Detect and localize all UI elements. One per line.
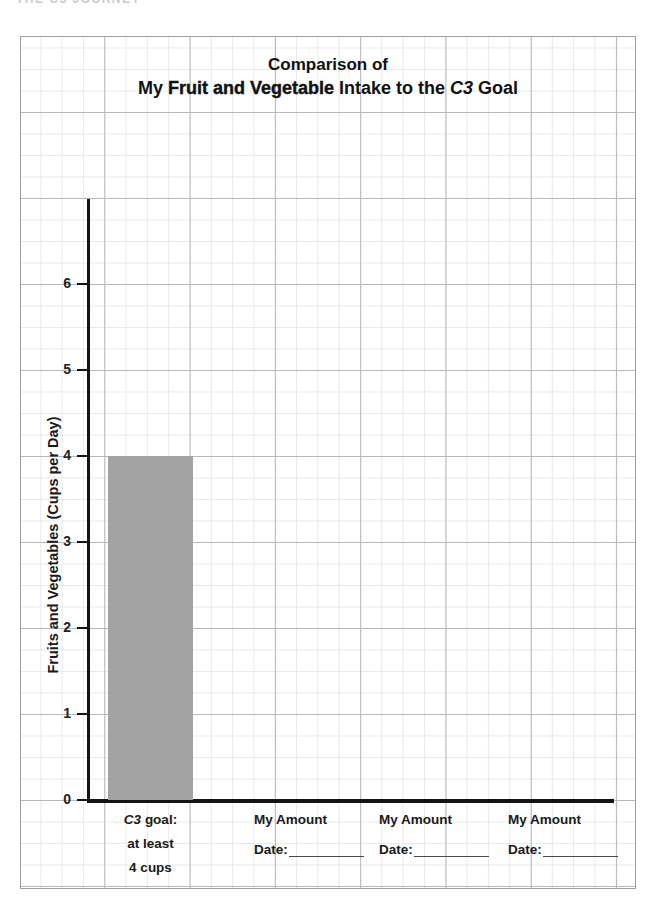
y-tick-0: [77, 799, 89, 802]
goal-label-line3: 4 cups: [100, 856, 201, 880]
y-tick-label-4: 4: [41, 447, 71, 463]
chart-title-line2: My Fruit and Vegetable Intake to the C3 …: [21, 77, 635, 100]
goal-bar: [108, 456, 193, 800]
date-label: Date:: [508, 842, 542, 857]
title-prefix: My: [138, 78, 168, 98]
y-tick-6: [77, 283, 89, 286]
date-label: Date:: [254, 842, 288, 857]
title-middle: Intake to the: [334, 78, 450, 98]
my-amount-label: My Amount: [379, 812, 529, 827]
y-tick-5: [77, 369, 89, 372]
goal-bar-label: C3 goal: at least 4 cups: [100, 808, 201, 880]
y-tick-4: [77, 455, 89, 458]
y-tick-label-5: 5: [41, 361, 71, 377]
title-suffix: Goal: [473, 78, 518, 98]
my-amount-block-3: My Amount Date:: [508, 812, 656, 857]
date-label: Date:: [379, 842, 413, 857]
clipped-header-text: THE C3 JOURNEY: [16, 0, 141, 6]
y-tick-2: [77, 627, 89, 630]
chart-title: Comparison of My Fruit and Vegetable Int…: [21, 54, 635, 100]
my-amount-label: My Amount: [508, 812, 656, 827]
worksheet-page: { "page": { "clipped_header_text": "THE …: [0, 0, 656, 912]
chart-title-line1: Comparison of: [21, 54, 635, 75]
y-tick-1: [77, 713, 89, 716]
title-emphasis: Fruit and Vegetable: [168, 78, 334, 98]
title-c3: C3: [450, 78, 473, 98]
date-blank-line: [414, 841, 489, 857]
y-tick-label-2: 2: [41, 619, 71, 635]
date-blank-line: [289, 841, 364, 857]
goal-label-line2: at least: [100, 832, 201, 856]
my-amount-block-2: My Amount Date:: [379, 812, 529, 857]
y-tick-label-1: 1: [41, 705, 71, 721]
date-blank-line: [543, 841, 618, 857]
y-tick-label-6: 6: [41, 275, 71, 291]
y-tick-label-0: 0: [41, 791, 71, 807]
goal-label-rest: goal:: [141, 812, 177, 827]
chart-frame: Comparison of My Fruit and Vegetable Int…: [20, 36, 636, 889]
goal-label-c3: C3: [124, 812, 141, 827]
y-tick-label-3: 3: [41, 533, 71, 549]
goal-label-line1: C3 goal:: [100, 808, 201, 832]
y-tick-3: [77, 541, 89, 544]
